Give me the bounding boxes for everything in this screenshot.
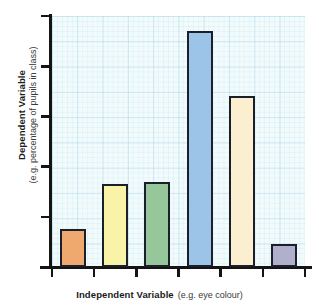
x-axis-tick (219, 268, 222, 277)
y-axis-tick (41, 165, 50, 168)
plot-area (52, 16, 305, 267)
x-axis-tick (177, 268, 180, 277)
plot-background-grid (52, 16, 305, 267)
bar-4 (187, 31, 213, 267)
bar-chart-figure: Dependent Variable (e.g. percentage of p… (0, 0, 319, 307)
y-axis-label-main: Dependent Variable (16, 70, 28, 160)
x-axis-tick (135, 268, 138, 277)
x-axis-tick (93, 268, 96, 277)
y-axis-line (49, 14, 52, 269)
y-axis-tick (41, 65, 50, 68)
y-axis-tick (41, 216, 50, 219)
y-axis-tick (41, 266, 50, 269)
x-axis-label-main: Independent Variable (76, 289, 174, 300)
bar-3 (144, 182, 170, 267)
y-axis-tick (41, 115, 50, 118)
bar-1 (60, 229, 86, 267)
bar-2 (102, 184, 128, 267)
x-axis-tick (262, 268, 265, 277)
x-axis-label: Independent Variable(e.g. eye colour) (0, 284, 319, 302)
x-axis-tick (51, 268, 54, 277)
y-axis-label-example: (e.g. percentage of pupils in class) (28, 46, 39, 183)
x-axis-label-example: (e.g. eye colour) (178, 290, 243, 300)
x-axis-tick (304, 268, 307, 277)
y-axis-tick (41, 15, 50, 18)
y-axis-label-stack: Dependent Variable (e.g. percentage of p… (16, 46, 39, 183)
bar-5 (229, 96, 255, 267)
bar-6 (271, 244, 297, 267)
